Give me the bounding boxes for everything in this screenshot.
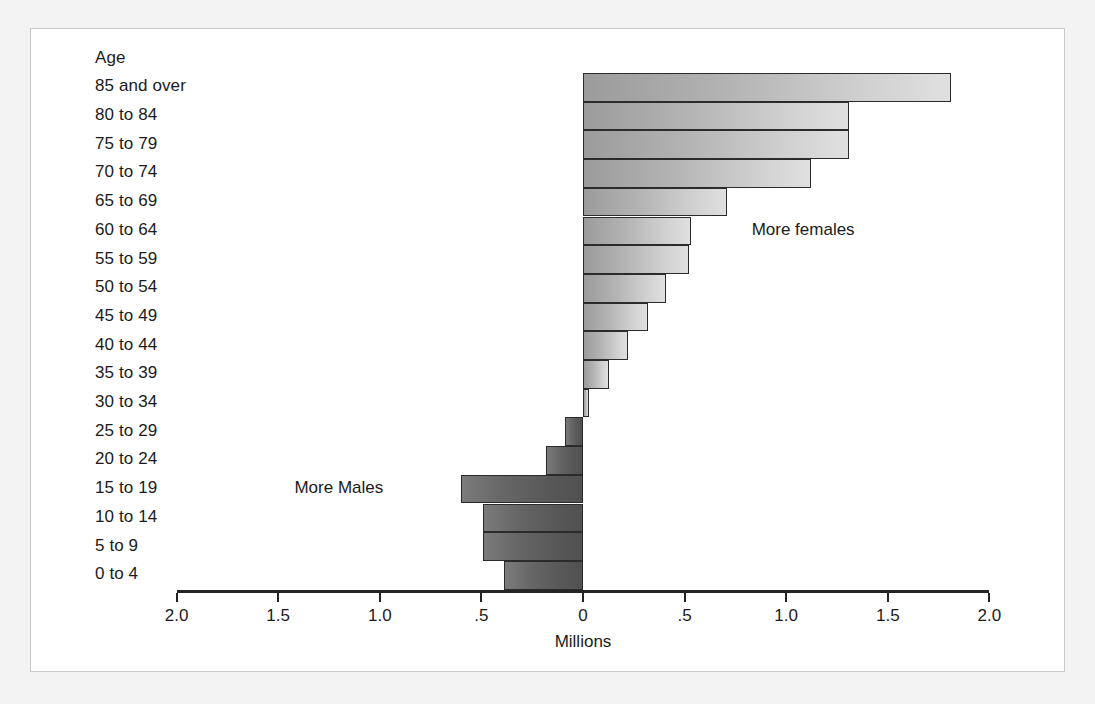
category-label: 15 to 19: [95, 478, 157, 498]
category-label: 0 to 4: [95, 564, 138, 584]
bar-more-females: [583, 159, 811, 188]
x-axis-title: Millions: [503, 632, 663, 652]
x-axis-tick-label: 2.0: [949, 606, 1029, 626]
annotation-more-females: More females: [752, 220, 855, 240]
x-axis-tick-label: 1.5: [238, 606, 318, 626]
category-label: 35 to 39: [95, 363, 157, 383]
x-axis-tick-label: .5: [441, 606, 521, 626]
x-axis-tick: [582, 593, 584, 602]
category-label: 10 to 14: [95, 507, 157, 527]
category-label: 60 to 64: [95, 220, 157, 240]
plot-area: 85 and over80 to 8475 to 7970 to 7465 to…: [0, 0, 1095, 704]
bar-more-males: [565, 417, 583, 446]
x-axis-tick: [379, 593, 381, 602]
bar-more-males: [504, 561, 583, 590]
annotation-more-males: More Males: [294, 478, 383, 498]
category-label: 65 to 69: [95, 191, 157, 211]
bar-more-females: [583, 331, 628, 360]
bar-more-females: [583, 360, 609, 389]
x-axis-tick: [480, 593, 482, 602]
bar-more-males: [483, 532, 583, 561]
category-label: 50 to 54: [95, 277, 157, 297]
bar-more-females: [583, 303, 648, 332]
x-axis-tick-label: 1.0: [340, 606, 420, 626]
x-axis-tick: [887, 593, 889, 602]
x-axis-tick-label: 2.0: [137, 606, 217, 626]
bar-more-females: [583, 130, 849, 159]
category-label: 75 to 79: [95, 134, 157, 154]
category-label: 70 to 74: [95, 162, 157, 182]
x-axis-tick: [277, 593, 279, 602]
bar-more-males: [483, 504, 583, 533]
category-label: 85 and over: [95, 76, 186, 96]
chart-page: Age 85 and over80 to 8475 to 7970 to 746…: [0, 0, 1095, 704]
bar-more-females: [583, 102, 849, 131]
x-axis-tick-label: 1.0: [746, 606, 826, 626]
bar-more-males: [461, 475, 583, 504]
category-label: 55 to 59: [95, 249, 157, 269]
category-label: 40 to 44: [95, 335, 157, 355]
x-axis-tick: [988, 593, 990, 602]
category-label: 20 to 24: [95, 449, 157, 469]
bar-more-females: [583, 217, 691, 246]
x-axis-tick: [176, 593, 178, 602]
bar-more-males: [546, 446, 583, 475]
x-axis-tick: [684, 593, 686, 602]
category-label: 5 to 9: [95, 536, 138, 556]
category-label: 80 to 84: [95, 105, 157, 125]
x-axis-tick-label: 0: [543, 606, 623, 626]
x-axis-tick-label: 1.5: [848, 606, 928, 626]
category-label: 30 to 34: [95, 392, 157, 412]
bar-more-females: [583, 274, 666, 303]
category-label: 45 to 49: [95, 306, 157, 326]
bar-more-females: [583, 73, 951, 102]
bar-more-females: [583, 389, 589, 418]
bar-more-females: [583, 245, 689, 274]
bar-more-females: [583, 188, 727, 217]
category-label: 25 to 29: [95, 421, 157, 441]
x-axis-tick: [785, 593, 787, 602]
x-axis-tick-label: .5: [645, 606, 725, 626]
